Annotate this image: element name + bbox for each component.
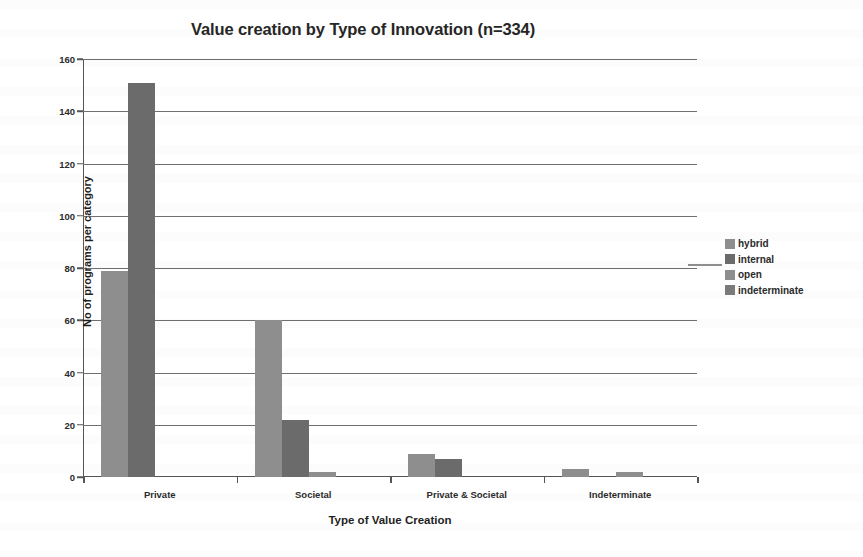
y-tick-label: 60	[64, 315, 75, 326]
x-tick-label-private: Private	[144, 489, 176, 500]
legend-label: internal	[738, 254, 774, 265]
y-tick-label: 20	[64, 419, 75, 430]
legend-label: hybrid	[738, 238, 769, 249]
legend-item-open[interactable]: open	[725, 267, 855, 282]
bar-open-indeterminate	[616, 472, 643, 477]
gridline	[83, 320, 697, 321]
x-tick-label-indeterminate: Indeterminate	[589, 489, 651, 500]
x-tick-mark	[237, 477, 239, 483]
legend-item-hybrid[interactable]: hybrid	[725, 236, 855, 251]
y-tick-mark	[77, 163, 83, 165]
legend-label: open	[738, 269, 762, 280]
x-axis-label: Type of Value Creation	[83, 514, 697, 526]
x-tick-label-societal: Societal	[295, 489, 331, 500]
chart-legend: hybridinternalopenindeterminate	[725, 236, 855, 298]
bar-hybrid-private-societal	[408, 454, 435, 478]
gridline	[83, 425, 697, 426]
gridline	[83, 216, 697, 217]
bar-hybrid-private	[101, 271, 128, 477]
gridline	[83, 59, 697, 60]
bar-chart-figure: Value creation by Type of Innovation (n=…	[0, 0, 863, 557]
gridline	[83, 373, 697, 374]
bar-internal-private	[128, 83, 155, 477]
y-axis-label: No of programs per category	[81, 176, 93, 327]
legend-swatch-icon-open	[725, 270, 735, 280]
bar-open-societal	[309, 472, 336, 477]
y-tick-label: 160	[59, 54, 75, 65]
legend-swatch-icon-hybrid	[725, 239, 735, 249]
y-tick-label: 80	[64, 263, 75, 274]
legend-item-internal[interactable]: internal	[725, 252, 855, 267]
legend-swatch-icon-internal	[725, 254, 735, 264]
y-tick-label: 40	[64, 367, 75, 378]
gridline	[83, 111, 697, 112]
x-tick-label-private-societal: Private & Societal	[427, 489, 507, 500]
legend-item-indeterminate[interactable]: indeterminate	[725, 283, 855, 298]
x-tick-mark	[390, 477, 392, 483]
bar-internal-societal	[282, 420, 309, 477]
y-tick-label: 140	[59, 106, 75, 117]
chart-title: Value creation by Type of Innovation (n=…	[83, 20, 643, 39]
y-tick-mark	[77, 372, 83, 374]
legend-leader-line	[688, 264, 722, 266]
x-tick-mark	[83, 477, 85, 483]
bar-internal-private-societal	[435, 459, 462, 477]
bar-hybrid-societal	[255, 320, 282, 477]
y-tick-mark	[77, 111, 83, 113]
bar-hybrid-indeterminate	[562, 469, 589, 477]
gridline	[83, 164, 697, 165]
gridline	[83, 268, 697, 269]
legend-label: indeterminate	[738, 285, 804, 296]
y-tick-label: 0	[70, 472, 75, 483]
y-tick-mark	[77, 424, 83, 426]
plot-area: 020406080100120140160 No of programs per…	[83, 59, 697, 477]
y-tick-label: 100	[59, 210, 75, 221]
x-tick-mark	[544, 477, 546, 483]
y-tick-label: 120	[59, 158, 75, 169]
x-tick-mark	[697, 477, 699, 483]
y-tick-mark	[77, 58, 83, 60]
legend-swatch-icon-indeterminate	[725, 285, 735, 295]
